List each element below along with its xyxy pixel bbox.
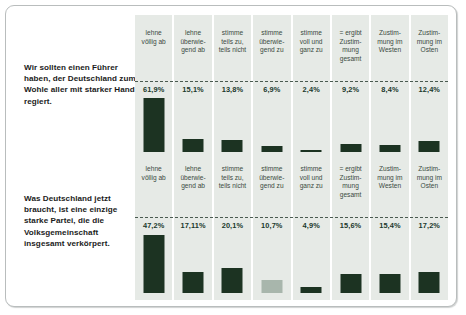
bar-value-label: 4,9%	[293, 221, 330, 230]
bar-value-label: 15,4%	[371, 221, 408, 230]
bar-column: Zustim- mung im Osten17,2%	[411, 155, 448, 300]
bar	[143, 98, 164, 152]
bar-plot-area	[293, 95, 330, 152]
bar	[183, 139, 204, 152]
bar-column: = ergibt Zustim- mung gesamt9,2%	[332, 15, 369, 155]
bar-plot-area	[174, 95, 211, 152]
bar	[379, 274, 400, 293]
column-header-label: Zustim- mung im Osten	[411, 159, 448, 191]
bar	[419, 141, 440, 152]
column-header-label: stimme teils zu, teils nicht	[214, 23, 251, 55]
bar-value-label: 17,11%	[174, 221, 211, 230]
bar-plot-area	[214, 95, 251, 152]
bar-plot-area	[135, 95, 172, 152]
bar-column: stimme teils zu, teils nicht13,8%	[214, 15, 251, 155]
bar-value-label: 15,1%	[174, 85, 211, 94]
column-header-label: stimme überwie- gend zu	[253, 23, 290, 55]
bar-column: lehne völlig ab61,9%	[135, 15, 172, 155]
bar	[222, 268, 243, 293]
column-header-label: = ergibt Zustim- mung gesamt	[332, 159, 369, 199]
bar-value-label: 10,7%	[253, 221, 290, 230]
bar	[379, 145, 400, 152]
column-header-label: lehne überwie- gend ab	[174, 159, 211, 191]
column-header-label: lehne völlig ab	[135, 23, 172, 46]
bar-value-label: 2,4%	[293, 85, 330, 94]
bar-plot-area	[371, 231, 408, 293]
bar-value-label: 47,2%	[135, 221, 172, 230]
bar-column: Zustim- mung im Westen15,4%	[371, 155, 408, 300]
column-header-label: lehne völlig ab	[135, 159, 172, 182]
bar-column: Zustim- mung im Westen8,4%	[371, 15, 408, 155]
bar-column: stimme teils zu, teils nicht20,1%	[214, 155, 251, 300]
bar	[261, 280, 282, 293]
bar-plot-area	[371, 95, 408, 152]
bar-column: stimme überwie- gend zu6,9%	[253, 15, 290, 155]
column-header-label: Zustim- mung im Osten	[411, 23, 448, 55]
bar-value-label: 13,8%	[214, 85, 251, 94]
baseline-divider-top	[135, 81, 448, 82]
bar-plot-area	[411, 231, 448, 293]
baseline-divider-bottom	[135, 217, 448, 218]
column-header-label: = ergibt Zustim- mung gesamt	[332, 23, 369, 63]
bar-value-label: 17,2%	[411, 221, 448, 230]
bar-plot-area	[135, 231, 172, 293]
bar-plot-area	[411, 95, 448, 152]
chart-frame: Wir sollten einen Führer haben, der Deut…	[5, 5, 457, 307]
bar-value-label: 9,2%	[332, 85, 369, 94]
bar	[183, 272, 204, 293]
bar-columns-top: lehne völlig ab61,9%lehne überwie- gend …	[135, 15, 448, 155]
chart-panel-bottom: Was Deutschland jetzt braucht, ist eine …	[6, 155, 456, 300]
bar-columns-bottom: lehne völlig ab47,2%lehne überwie- gend …	[135, 155, 448, 300]
bar-plot-area	[253, 95, 290, 152]
column-header-label: stimme voll und ganz zu	[293, 23, 330, 55]
bar-value-label: 12,4%	[411, 85, 448, 94]
bar-column: Zustim- mung im Osten12,4%	[411, 15, 448, 155]
bar	[222, 140, 243, 152]
bar	[143, 235, 164, 294]
bar	[340, 144, 361, 152]
bar-column: lehne überwie- gend ab17,11%	[174, 155, 211, 300]
bar	[261, 146, 282, 152]
bar-value-label: 20,1%	[214, 221, 251, 230]
bar-value-label: 15,6%	[332, 221, 369, 230]
bar-plot-area	[214, 231, 251, 293]
chart-panel-top: Wir sollten einen Führer haben, der Deut…	[6, 15, 456, 155]
bar	[340, 274, 361, 293]
bar-value-label: 8,4%	[371, 85, 408, 94]
column-header-label: stimme überwie- gend zu	[253, 159, 290, 191]
column-header-label: lehne überwie- gend ab	[174, 23, 211, 55]
column-header-label: Zustim- mung im Westen	[371, 159, 408, 191]
bar-column: lehne völlig ab47,2%	[135, 155, 172, 300]
bar-value-label: 6,9%	[253, 85, 290, 94]
bar-plot-area	[332, 231, 369, 293]
bar-column: = ergibt Zustim- mung gesamt15,6%	[332, 155, 369, 300]
bar-column: stimme voll und ganz zu2,4%	[293, 15, 330, 155]
bar-plot-area	[253, 231, 290, 293]
bar-value-label: 61,9%	[135, 85, 172, 94]
bar-column: stimme überwie- gend zu10,7%	[253, 155, 290, 300]
column-header-label: stimme voll und ganz zu	[293, 159, 330, 191]
bar-column: stimme voll und ganz zu4,9%	[293, 155, 330, 300]
statement-text-bottom: Was Deutschland jetzt braucht, ist eine …	[24, 193, 136, 249]
bar	[301, 287, 322, 293]
bar-plot-area	[332, 95, 369, 152]
bar-column: lehne überwie- gend ab15,1%	[174, 15, 211, 155]
column-header-label: stimme teils zu, teils nicht	[214, 159, 251, 191]
bar	[419, 272, 440, 293]
bar-plot-area	[174, 231, 211, 293]
bar	[301, 150, 322, 153]
bar-plot-area	[293, 231, 330, 293]
column-header-label: Zustim- mung im Westen	[371, 23, 408, 55]
statement-text-top: Wir sollten einen Führer haben, der Deut…	[24, 62, 136, 107]
